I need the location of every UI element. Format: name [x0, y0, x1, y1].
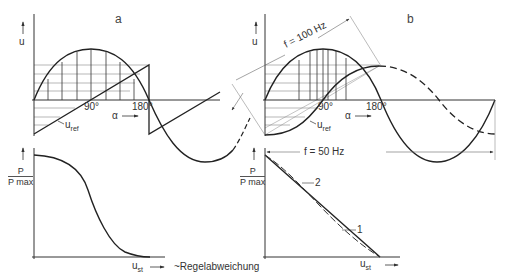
alpha-label-a: α [112, 110, 118, 121]
sample-lines-b [299, 49, 346, 100]
tick-90-a: 90° [84, 101, 99, 112]
panel-b-upper [232, 14, 495, 162]
power-curve-a [34, 155, 150, 257]
uref-label-b: uref [317, 119, 331, 132]
ust-label-b: ust [360, 258, 371, 271]
panel-a-upper [23, 14, 250, 162]
panel-label-a: a [115, 12, 122, 26]
p-over-pmax-b: P P max [240, 166, 265, 187]
freq-50hz-label: f = 50 Hz [302, 146, 346, 157]
y-axis-label-a: u [19, 36, 25, 47]
uref-label-a: uref [65, 119, 79, 132]
panel-a-lower [23, 148, 165, 267]
ust-label-a: ust [132, 260, 143, 273]
p-over-pmax-a: P P max [8, 166, 33, 187]
panel-b-lower [254, 148, 400, 265]
tick-180-b: 180° [366, 101, 387, 112]
tick-180-a: 180° [132, 101, 153, 112]
sine-wave-a-dashed [233, 118, 250, 150]
y-axis-label-b: u [252, 36, 258, 47]
alpha-label-b: α [345, 110, 351, 121]
curve-1-label: 1 [357, 224, 363, 235]
panel-label-b: b [407, 12, 414, 26]
sample-lines-a [48, 49, 134, 100]
power-line-1-b [265, 155, 380, 257]
curve-2-label: 2 [315, 177, 321, 188]
tick-90-b: 90° [318, 101, 333, 112]
regelabweichung-note: ~Regelabweichung [174, 261, 259, 272]
